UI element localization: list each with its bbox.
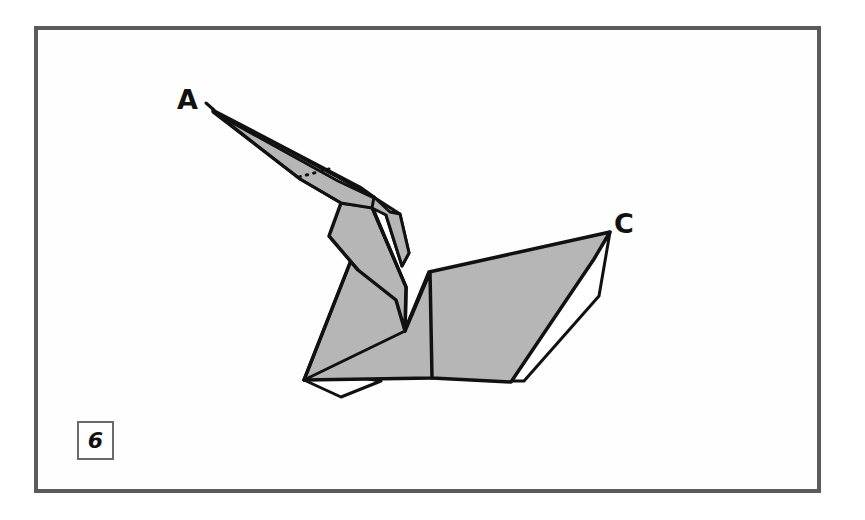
diagram-page: 6 A C xyxy=(0,0,865,520)
step-number-badge: 6 xyxy=(77,421,114,460)
step-number-value: 6 xyxy=(88,430,103,452)
instruction-panel-frame xyxy=(34,26,821,493)
point-label-a: A xyxy=(177,86,198,113)
point-label-c: C xyxy=(614,210,634,237)
